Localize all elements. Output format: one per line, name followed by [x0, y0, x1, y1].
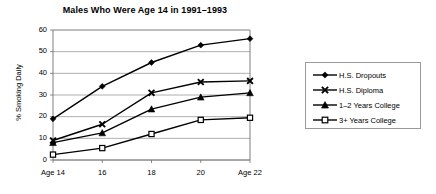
legend-symbol — [322, 72, 328, 78]
legend-label: 1–2 Years College — [339, 101, 400, 110]
data-point-open-square — [149, 131, 154, 136]
chart-figure: Males Who Were Age 14 in 1991–1993 % Smo… — [0, 0, 436, 194]
legend-marker-diamond-icon — [312, 69, 338, 81]
data-point-open-square — [100, 145, 105, 150]
legend-marker-x-icon — [312, 84, 338, 96]
legend-item[interactable]: 1–2 Years College — [312, 98, 400, 112]
data-point-diamond — [247, 36, 253, 42]
legend-label: H.S. Dropouts — [339, 71, 386, 80]
legend-marker-open-square-icon — [312, 114, 338, 126]
legend-label: H.S. Diploma — [339, 86, 383, 95]
data-point-diamond — [149, 60, 155, 66]
series-4 — [50, 115, 252, 157]
legend-item[interactable]: H.S. Dropouts — [312, 68, 386, 82]
data-point-diamond — [198, 42, 204, 48]
data-point-open-square — [247, 115, 252, 120]
legend-item[interactable]: 3+ Years College — [312, 113, 396, 127]
data-point-open-square — [50, 152, 55, 157]
legend-item[interactable]: H.S. Diploma — [312, 83, 383, 97]
legend-label: 3+ Years College — [339, 116, 396, 125]
legend-symbol — [322, 117, 328, 123]
legend-marker-triangle-icon — [312, 99, 338, 111]
data-point-open-square — [198, 117, 203, 122]
chart-legend: H.S. DropoutsH.S. Diploma1–2 Years Colle… — [305, 62, 421, 129]
